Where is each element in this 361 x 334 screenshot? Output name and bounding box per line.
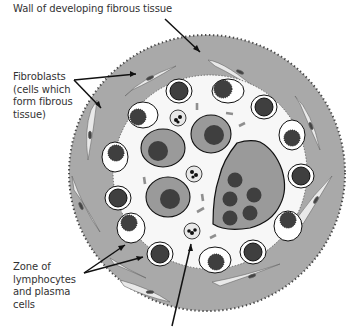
zone-line-1: Zone of: [13, 261, 76, 274]
fibroblasts-line-4: tissue): [13, 109, 73, 122]
zone-line-4: cells: [13, 299, 76, 312]
fibroblasts-label: Fibroblasts (cells which form fibrous ti…: [13, 71, 73, 121]
zone-line-2: lymphocytes: [13, 274, 76, 287]
fibroblasts-line-3: form fibrous: [13, 96, 73, 109]
wall-label: Wall of developing fibrous tissue: [13, 3, 172, 16]
fibroblasts-line-2: (cells which: [13, 84, 73, 97]
zone-label: Zone of lymphocytes and plasma cells: [13, 261, 76, 311]
fibroblasts-line-1: Fibroblasts: [13, 71, 73, 84]
zone-line-3: and plasma: [13, 286, 76, 299]
